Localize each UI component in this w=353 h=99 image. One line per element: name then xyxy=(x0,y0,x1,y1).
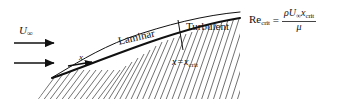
x-crit-label: x=xcrit xyxy=(172,57,198,69)
freestream-velocity-symbol: U xyxy=(19,24,27,36)
x-crit-equals-sign: = xyxy=(176,56,184,67)
reynolds-symbol-subscript: crit xyxy=(261,19,270,27)
formula-denominator: μ xyxy=(296,22,301,33)
x-distance-label: x xyxy=(79,53,83,62)
boundary-layer-diagram: U∞ x Laminar Turbulent x=xcrit Recrit = … xyxy=(0,0,353,99)
formula-fraction: ρU∞xcrit μ xyxy=(282,8,316,33)
formula-equals-sign: = xyxy=(270,14,282,26)
numerator-x-subscript: crit xyxy=(305,12,314,20)
transition-station-line xyxy=(178,20,183,50)
formula-numerator: ρU∞xcrit xyxy=(282,8,316,20)
reynolds-symbol-group: Recrit xyxy=(249,13,270,27)
reynolds-symbol: Re xyxy=(249,13,261,25)
x-crit-rhs-subscript: crit xyxy=(189,61,198,69)
turbulent-region-label: Turbulent xyxy=(186,21,229,32)
freestream-velocity-label: U∞ xyxy=(19,25,32,38)
freestream-velocity-subscript: ∞ xyxy=(27,29,32,38)
reynolds-critical-formula: Recrit = ρU∞xcrit μ xyxy=(249,8,316,33)
numerator-velocity: U xyxy=(289,7,296,18)
